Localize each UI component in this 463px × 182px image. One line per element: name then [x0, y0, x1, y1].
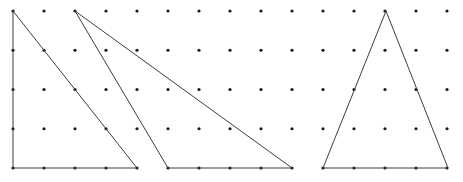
lattice-dot: [228, 127, 231, 130]
lattice-dot: [104, 9, 107, 12]
lattice-dot: [42, 127, 45, 130]
lattice-dot: [166, 9, 169, 12]
lattice-dot: [228, 9, 231, 12]
lattice-dot: [445, 49, 448, 52]
lattice-dot: [135, 127, 138, 130]
lattice-dot: [321, 88, 324, 91]
lattice-dot: [383, 49, 386, 52]
lattice-dot: [445, 88, 448, 91]
lattice-dot: [135, 49, 138, 52]
lattice-dot: [259, 88, 262, 91]
lattice-dot: [290, 9, 293, 12]
lattice-dot: [197, 127, 200, 130]
lattice-dot: [197, 9, 200, 12]
lattice-dot: [290, 49, 293, 52]
lattice-dot: [383, 88, 386, 91]
lattice-dot: [321, 9, 324, 12]
lattice-dot: [414, 49, 417, 52]
lattice-dot: [228, 88, 231, 91]
lattice-dot: [352, 49, 355, 52]
lattice-dot: [228, 49, 231, 52]
lattice-dot: [259, 127, 262, 130]
figure-svg: [0, 0, 463, 182]
lattice-dot: [73, 49, 76, 52]
lattice-dot: [352, 127, 355, 130]
lattice-dot: [104, 49, 107, 52]
lattice-dot: [135, 9, 138, 12]
lattice-dot: [135, 88, 138, 91]
lattice-dot: [197, 88, 200, 91]
lattice-dot: [290, 88, 293, 91]
lattice-dot: [259, 49, 262, 52]
lattice-dot: [73, 127, 76, 130]
lattice-dot: [383, 127, 386, 130]
triangle-left-right-angled: [13, 11, 137, 168]
lattice-dot: [42, 88, 45, 91]
lattice-dot: [290, 127, 293, 130]
geoboard-figure: [0, 0, 463, 182]
lattice-dot: [166, 127, 169, 130]
lattice-dot: [414, 127, 417, 130]
lattice-dot: [321, 49, 324, 52]
lattice-dot: [414, 9, 417, 12]
lattice-dot: [104, 88, 107, 91]
lattice-dot: [259, 9, 262, 12]
lattice-dot: [166, 88, 169, 91]
lattice-dot: [445, 9, 448, 12]
lattice-dot: [42, 9, 45, 12]
lattice-dot: [352, 9, 355, 12]
dot-grid: [11, 9, 448, 169]
lattice-dot: [445, 127, 448, 130]
lattice-dot: [321, 127, 324, 130]
lattice-dot: [166, 49, 169, 52]
lattice-dot: [197, 49, 200, 52]
